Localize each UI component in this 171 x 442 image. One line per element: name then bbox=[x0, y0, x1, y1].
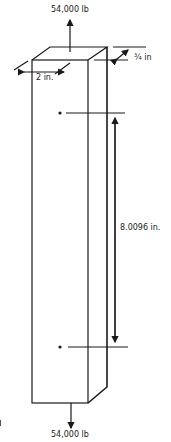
gage-dot-bottom bbox=[58, 345, 61, 348]
tensile-bar-diagram bbox=[0, 0, 171, 442]
width-label: 2 in. bbox=[36, 74, 53, 82]
thickness-dimension-arrow-icon bbox=[117, 50, 128, 59]
bottom-load-label: 54,000 lb bbox=[51, 431, 89, 439]
bar-side-face bbox=[88, 47, 107, 403]
edge-mark bbox=[0, 420, 1, 426]
gage-dot-top bbox=[58, 111, 61, 114]
width-extension-line bbox=[14, 61, 28, 70]
gage-length-label: 8.0096 in. bbox=[120, 224, 160, 232]
top-load-label: 54,000 lb bbox=[51, 6, 89, 14]
thickness-label: ¾ in bbox=[134, 54, 152, 62]
